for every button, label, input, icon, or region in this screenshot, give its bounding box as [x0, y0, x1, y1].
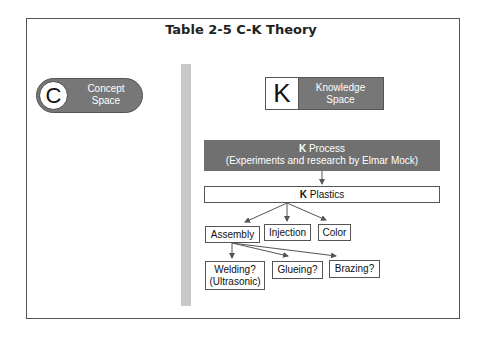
connector-arrows: [0, 0, 482, 339]
